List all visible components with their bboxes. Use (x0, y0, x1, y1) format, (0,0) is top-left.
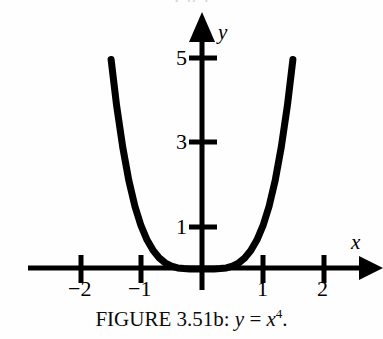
y-axis-tick-label-3: 3 (176, 131, 187, 153)
figure-caption: FIGURE 3.51b: y = x4. (0, 306, 383, 332)
y-axis-tick-label-5: 5 (176, 47, 187, 69)
y-axis-label: y (218, 22, 227, 43)
caption-period: . (282, 307, 287, 331)
x-axis-label: x (351, 232, 360, 253)
x-axis-tick-label-2: 2 (317, 278, 328, 300)
plot-canvas (0, 0, 383, 300)
figure-container: ( g ) −2 −1 1 2 1 3 5 x y FIGURE 3.51b: … (0, 0, 383, 339)
y-axis-tick-label-1: 1 (176, 216, 187, 238)
x-axis-arrowhead (359, 256, 383, 280)
caption-figure-number: FIGURE 3.51b: (95, 307, 229, 331)
y-axis-arrowhead (189, 12, 215, 42)
caption-equation-base: x (267, 307, 276, 331)
x-axis-tick-label--2: −2 (68, 278, 91, 300)
caption-equation-lhs: y (235, 307, 244, 331)
x-axis-tick-label--1: −1 (128, 278, 151, 300)
x-axis-tick-label-1: 1 (257, 278, 268, 300)
caption-equation-equals: = (249, 307, 261, 331)
